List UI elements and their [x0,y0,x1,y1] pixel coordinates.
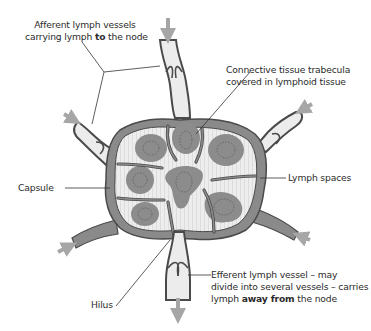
emphasis-to: to [95,31,105,42]
emphasis-away-from: away from [242,293,295,304]
label-efferent-line2: divide into several vessels – carries [211,281,368,293]
lymph-node-body [106,119,267,240]
text: carrying lymph [25,31,95,42]
label-capsule: Capsule [18,182,54,194]
label-afferent: Afferent lymph vessels carrying lymph to… [25,19,145,43]
label-hilus: Hilus [91,299,113,311]
label-efferent: Efferent lymph vessel – may divide into … [211,269,368,305]
label-trabecula-line2: covered in lymphoid tissue [226,76,350,88]
label-efferent-line1: Efferent lymph vessel – may [211,269,368,281]
text: lymph [211,293,242,304]
text: the node [294,293,337,304]
label-afferent-line1: Afferent lymph vessels [25,19,145,31]
label-lymph-spaces: Lymph spaces [288,172,351,184]
afferent-vessel-lower-right [252,208,310,240]
label-efferent-line3: lymph away from the node [211,293,368,305]
label-afferent-line2: carrying lymph to the node [25,31,145,43]
label-trabecula-line1: Connective tissue trabecula [226,64,350,76]
label-trabecula: Connective tissue trabecula covered in l… [226,64,350,88]
afferent-vessel-lower-left [58,220,118,252]
afferent-vessel-right [256,104,312,152]
efferent-vessel [166,232,190,316]
afferent-vessel-top [160,18,190,118]
text: the node [105,31,148,42]
